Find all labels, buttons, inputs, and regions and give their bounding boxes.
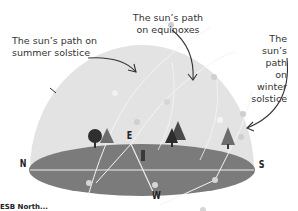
sun-position-dot <box>240 111 246 117</box>
direction-south: S <box>259 159 265 170</box>
direction-east: E <box>127 130 132 141</box>
winter-label-line-2: winter solstice <box>251 81 287 105</box>
equinox-label-line-1: The sun’s path <box>133 12 203 24</box>
sun-path-diagram: The sun’s path on summer solstice The su… <box>0 0 298 211</box>
sun-position-dot <box>217 117 223 123</box>
sun-position-dot <box>152 182 158 188</box>
equinox-label: The sun’s path on equinoxes <box>133 12 203 36</box>
sun-position-dot <box>164 99 170 105</box>
observer-figure <box>141 150 145 161</box>
equinox-label-line-2: on equinoxes <box>133 24 203 36</box>
sun-position-dot <box>212 177 218 183</box>
summer-label-line-2: summer solstice <box>12 47 97 59</box>
dome-tick-mark <box>50 88 56 93</box>
cut-off-caption: ESB North... <box>0 203 48 211</box>
sun-position-dot <box>238 134 244 140</box>
sun-position-dot <box>112 90 118 96</box>
summer-solstice-label: The sun’s path on summer solstice <box>12 35 97 59</box>
direction-west: W <box>152 190 161 201</box>
sun-position-dot <box>200 207 206 211</box>
sun-position-dot <box>211 74 217 80</box>
winter-solstice-label: The sun’s path on winter solstice <box>251 33 287 105</box>
sun-position-dot <box>134 119 140 125</box>
winter-label-line-1: The sun’s path on <box>251 33 287 81</box>
sun-position-dot <box>86 180 92 186</box>
direction-north: N <box>20 158 27 169</box>
summer-label-line-1: The sun’s path on <box>12 35 97 47</box>
